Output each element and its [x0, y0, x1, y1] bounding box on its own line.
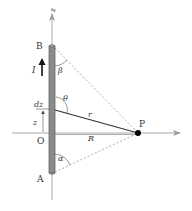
label-a: A [36, 174, 44, 184]
current-arrow-icon [39, 58, 46, 76]
label-z-height: z [32, 118, 38, 127]
label-alpha: α [58, 154, 64, 163]
point-p [135, 130, 141, 136]
label-b: B [36, 41, 43, 51]
label-current: I [31, 65, 36, 75]
dashed-line-b-to-p [55, 48, 138, 133]
r-vector-line [55, 110, 138, 133]
label-origin: O [37, 136, 44, 146]
z-axis-label: z [49, 8, 57, 13]
label-beta: β [57, 66, 63, 75]
label-dz: dz [34, 100, 44, 109]
wire-field-diagram: z B [0, 0, 192, 211]
label-theta: θ [63, 94, 68, 103]
label-r: r [88, 110, 93, 119]
dashed-line-a-to-p [55, 133, 138, 172]
label-p: P [139, 119, 145, 129]
label-R: R [87, 134, 94, 143]
current-rod [49, 45, 55, 175]
